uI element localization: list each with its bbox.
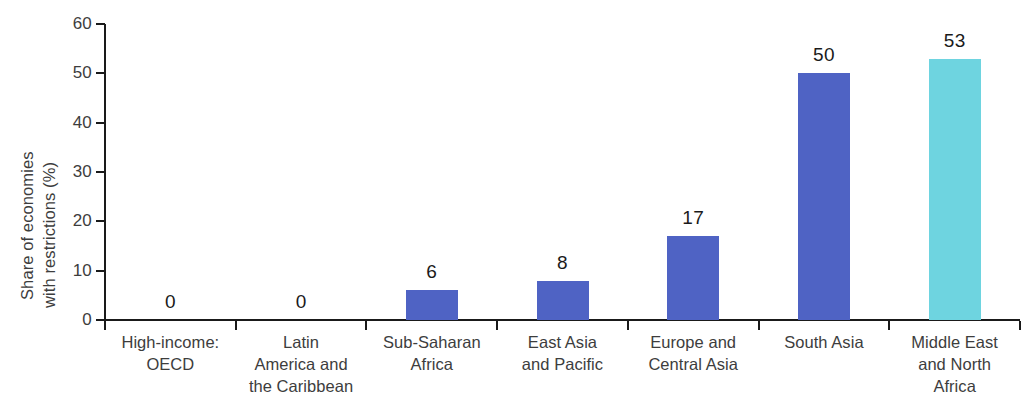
bar (667, 236, 719, 320)
bar-value-label: 0 (130, 291, 210, 313)
x-axis-category-label-line: OECD (97, 353, 244, 375)
x-axis-category-label: High-income:OECD (97, 331, 244, 375)
y-axis-tick-label: 50 (6, 63, 92, 83)
x-axis-category-label-line: Africa (358, 353, 505, 375)
y-axis-tick (96, 122, 105, 124)
y-axis-tick (96, 171, 105, 173)
x-axis-category-label: South Asia (751, 331, 898, 353)
x-axis-tick (365, 321, 367, 330)
bar-value-label: 6 (392, 261, 472, 283)
y-axis-tick (96, 23, 105, 25)
y-axis-tick-label: 10 (6, 261, 92, 281)
x-axis-category-label-line: Middle East (881, 331, 1028, 353)
x-axis-category-label-line: Sub-Saharan (358, 331, 505, 353)
x-axis-category-label-line: and Pacific (489, 353, 636, 375)
x-axis-tick (758, 321, 760, 330)
x-axis-category-label: Europe andCentral Asia (620, 331, 767, 375)
x-axis-category-label: Middle Eastand NorthAfrica (881, 331, 1028, 397)
bar-chart: Share of economies with restrictions (%)… (0, 0, 1028, 407)
bar-value-label: 53 (915, 30, 995, 52)
x-axis-category-label-line: Europe and (620, 331, 767, 353)
y-axis-title-line-2: with restrictions (%) (40, 162, 59, 308)
x-axis-category-label-line: Central Asia (620, 353, 767, 375)
x-axis-category-label-line: High-income: (97, 331, 244, 353)
bar-value-label: 17 (653, 207, 733, 229)
y-axis-tick-label: 0 (6, 310, 92, 330)
bar (798, 73, 850, 320)
plot-area: 0068175053 (105, 24, 1020, 320)
y-axis-tick (96, 220, 105, 222)
x-axis-category-label-line: South Asia (751, 331, 898, 353)
bar (406, 290, 458, 320)
x-axis-category-label: Sub-SaharanAfrica (358, 331, 505, 375)
x-axis-category-label-line: the Caribbean (228, 375, 375, 397)
x-axis-tick (104, 321, 106, 330)
bar-value-label: 50 (784, 44, 864, 66)
x-axis-category-label-line: Latin (228, 331, 375, 353)
x-axis-category-label-line: and North (881, 353, 1028, 375)
x-axis-category-label: LatinAmerica andthe Caribbean (228, 331, 375, 397)
bar (537, 281, 589, 320)
x-axis-tick (235, 321, 237, 330)
y-axis-tick-label: 60 (6, 14, 92, 34)
y-axis-tick-label: 40 (6, 113, 92, 133)
bar-value-label: 0 (261, 291, 341, 313)
x-axis-tick (888, 321, 890, 330)
x-axis-tick (496, 321, 498, 330)
x-axis-category-label-line: Africa (881, 375, 1028, 397)
x-axis-tick (627, 321, 629, 330)
y-axis-tick-label: 30 (6, 162, 92, 182)
bar-value-label: 8 (523, 252, 603, 274)
x-axis-category-label-line: America and (228, 353, 375, 375)
x-axis-tick (1019, 321, 1021, 330)
y-axis-tick (96, 270, 105, 272)
y-axis-tick (96, 72, 105, 74)
x-axis-category-label: East Asiaand Pacific (489, 331, 636, 375)
bar (929, 59, 981, 320)
y-axis-tick-label: 20 (6, 211, 92, 231)
x-axis-category-label-line: East Asia (489, 331, 636, 353)
